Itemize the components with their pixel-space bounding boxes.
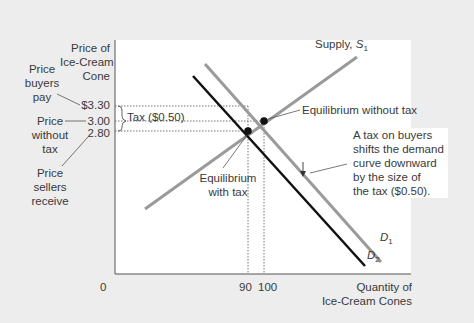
tick-quantity-100: 100	[258, 280, 277, 294]
label-line: without	[28, 128, 72, 142]
note-line: A tax on buyers	[353, 128, 444, 142]
d2-subscript: 2	[375, 255, 379, 264]
equilibrium-without-tax-label: Equilibrium without tax	[302, 103, 417, 117]
note-line: the tax ($0.50).	[353, 184, 444, 198]
tax-label: Tax ($0.50)	[127, 110, 185, 124]
label-price-sellers-receive: Price sellers receive	[28, 166, 72, 208]
label-line: Price	[22, 62, 62, 76]
equilibrium-without-tax-dot	[260, 117, 268, 125]
tick-quantity-90: 90	[239, 280, 252, 294]
label-line: Price	[28, 166, 72, 180]
label-line: with tax	[193, 185, 263, 199]
label-line: Price	[28, 114, 72, 128]
supply-label: Supply, S1	[315, 37, 368, 56]
equilibrium-with-tax-dot	[244, 127, 252, 135]
label-line: Equilibrium	[193, 171, 263, 185]
label-line: pay	[22, 90, 62, 104]
tax-shift-note: A tax on buyers shifts the demand curve …	[349, 128, 448, 198]
label-line: buyers	[22, 76, 62, 90]
note-line: shifts the demand	[353, 142, 444, 156]
y-axis-title: Price of Ice-Cream Cone	[60, 41, 110, 83]
d2-label: D2	[367, 248, 380, 267]
label-line: receive	[28, 194, 72, 208]
note-line: curve downward	[353, 156, 444, 170]
equilibrium-with-tax-label: Equilibrium with tax	[193, 171, 263, 199]
y-axis-title-line: Cone	[60, 69, 110, 83]
x-axis-title-line: Ice-Cream Cones	[300, 294, 412, 308]
label-line: sellers	[28, 180, 72, 194]
x-axis-title: Quantity of Ice-Cream Cones	[300, 280, 412, 308]
leader-note	[310, 164, 347, 173]
tick-price-280: 2.80	[70, 126, 110, 140]
origin-label: 0	[100, 280, 106, 294]
d1-subscript: 1	[388, 237, 392, 246]
tick-price-330: $3.30	[70, 98, 110, 112]
tax-brace	[118, 106, 126, 131]
supply-label-subscript: 1	[363, 44, 367, 53]
x-axis-title-line: Quantity of	[300, 280, 412, 294]
label-price-buyers-pay: Price buyers pay	[22, 62, 62, 104]
note-line: by the size of	[353, 170, 444, 184]
label-line: tax	[28, 142, 72, 156]
leader-eq-without	[268, 110, 300, 119]
y-axis-title-line: Price of	[60, 41, 110, 55]
supply-label-text: Supply,	[315, 38, 356, 50]
label-price-without-tax: Price without tax	[28, 114, 72, 156]
d1-label: D1	[380, 230, 393, 249]
y-axis-title-line: Ice-Cream	[60, 55, 110, 69]
